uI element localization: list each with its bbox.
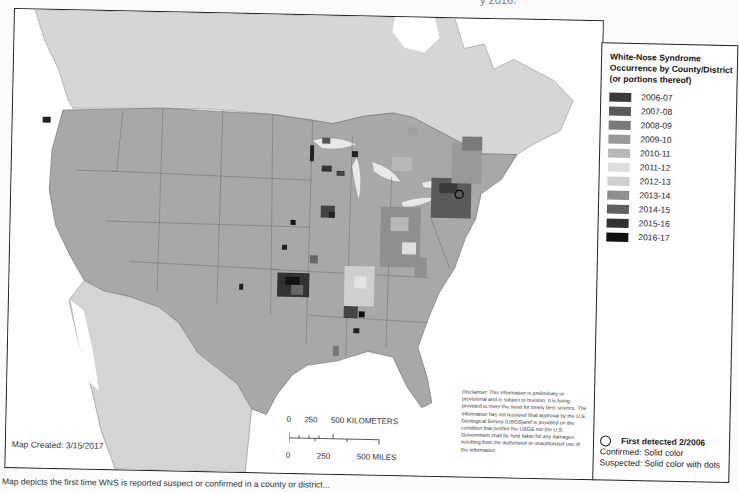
legend-label: 2012-13 (639, 176, 670, 187)
cut-off-title: y 2016. (480, 0, 516, 6)
legend-footer: First detected 2/2006 Confirmed: Solid c… (599, 435, 720, 471)
legend-swatch (608, 162, 630, 171)
legend-item: 2007-08 (609, 103, 672, 118)
legend-title: White-Nose Syndrome Occurrence by County… (610, 51, 733, 87)
legend-swatch (607, 204, 629, 213)
legend-swatch (607, 176, 629, 185)
legend-swatch (608, 148, 630, 157)
legend-item: 2008-09 (609, 117, 672, 132)
map-page: y 2016. (0, 0, 739, 492)
map-created-label: Map Created: 3/15/2017 (12, 439, 104, 451)
legend-label: 2014-15 (639, 204, 670, 215)
legend-swatch (607, 218, 629, 227)
legend-swatch (608, 134, 630, 143)
legend-item: 2015-16 (606, 215, 669, 230)
legend-swatch (609, 92, 631, 101)
legend-item: 2013-14 (607, 187, 670, 202)
legend: White-Nose Syndrome Occurrence by County… (592, 42, 738, 483)
map-area: Map Created: 3/15/2017 0 250 500 KILOMET… (4, 8, 604, 480)
scale-ruler (289, 431, 389, 447)
map-frame: Map Created: 3/15/2017 0 250 500 KILOMET… (4, 8, 739, 492)
legend-swatch (609, 106, 631, 115)
legend-item: 2006-07 (609, 89, 672, 104)
legend-item: 2016-17 (606, 229, 669, 244)
legend-list: 2006-07 2007-08 2008-09 2009-10 2010-11 … (606, 89, 672, 244)
legend-label: 2011-12 (640, 162, 671, 173)
suspected-label: Suspected: Solid color with dots (599, 457, 720, 471)
legend-label: 2013-14 (639, 190, 670, 201)
circle-marker-icon (600, 435, 611, 446)
legend-item: 2009-10 (608, 131, 671, 146)
legend-label: 2009-10 (640, 134, 671, 145)
map-caption: Map depicts the first time WNS is report… (2, 476, 330, 489)
legend-label: 2006-07 (641, 92, 672, 103)
legend-swatch (606, 232, 628, 241)
legend-swatch (607, 190, 629, 199)
legend-label: 2016-17 (638, 232, 669, 243)
legend-swatch (609, 120, 631, 129)
legend-label: 2007-08 (641, 106, 672, 117)
legend-label: 2008-09 (641, 120, 672, 131)
legend-label: 2010-11 (640, 148, 671, 159)
legend-label: 2015-16 (639, 218, 670, 229)
disclaimer-text: Disclaimer: This information is prelimin… (461, 388, 587, 455)
legend-item: 2014-15 (607, 201, 670, 216)
legend-item: 2010-11 (608, 145, 671, 160)
legend-item: 2012-13 (607, 173, 670, 188)
legend-item: 2011-12 (608, 159, 671, 174)
